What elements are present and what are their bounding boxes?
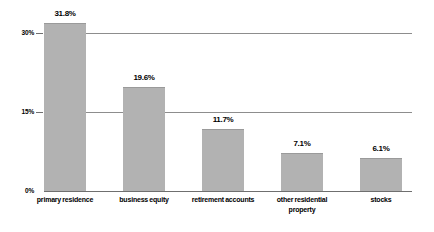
category-label-line: business equity bbox=[99, 195, 189, 205]
y-tick-30: 30% bbox=[0, 29, 34, 36]
bar-chart: 30% 15% 0% 31.8% primary residence 19.6%… bbox=[0, 0, 434, 232]
bar-other-residential-property bbox=[281, 153, 323, 191]
category-label-other-residential-property: other residential property bbox=[257, 195, 347, 215]
y-tick-label-0: 0% bbox=[8, 187, 34, 194]
plot-area: 30% 15% 0% 31.8% primary residence 19.6%… bbox=[0, 0, 434, 232]
bar-value-3: 7.1% bbox=[281, 139, 323, 148]
category-label-line: other residential bbox=[257, 195, 347, 205]
y-tick-label-15: 15% bbox=[8, 108, 34, 115]
category-label-primary-residence: primary residence bbox=[20, 195, 110, 205]
gridline-30 bbox=[44, 33, 412, 34]
bar-value-0: 31.8% bbox=[44, 9, 86, 18]
bar-primary-residence bbox=[44, 23, 86, 191]
y-tick-mark-15 bbox=[36, 112, 43, 113]
category-label-retirement-accounts: retirement accounts bbox=[178, 195, 268, 205]
y-tick-15: 15% bbox=[0, 108, 34, 115]
bar-value-4: 6.1% bbox=[360, 144, 402, 153]
category-label-stocks: stocks bbox=[336, 195, 426, 205]
y-tick-0: 0% bbox=[0, 187, 34, 194]
y-tick-mark-30 bbox=[36, 33, 43, 34]
x-axis-baseline bbox=[44, 191, 412, 192]
y-tick-label-30: 30% bbox=[8, 29, 34, 36]
category-label-line: stocks bbox=[336, 195, 426, 205]
bar-value-2: 11.7% bbox=[202, 115, 244, 124]
category-label-line: primary residence bbox=[20, 195, 110, 205]
category-label-line: retirement accounts bbox=[178, 195, 268, 205]
category-label-line: property bbox=[257, 205, 347, 215]
category-label-business-equity: business equity bbox=[99, 195, 189, 205]
bar-stocks bbox=[360, 158, 402, 191]
bar-retirement-accounts bbox=[202, 129, 244, 191]
gridline-15 bbox=[44, 112, 412, 113]
bar-value-1: 19.6% bbox=[123, 73, 165, 82]
bar-business-equity bbox=[123, 87, 165, 191]
